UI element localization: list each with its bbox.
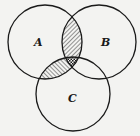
venn-diagram: A B C [0, 0, 140, 136]
label-a: A [33, 36, 43, 49]
label-c: C [68, 92, 77, 105]
label-b: B [100, 36, 110, 49]
